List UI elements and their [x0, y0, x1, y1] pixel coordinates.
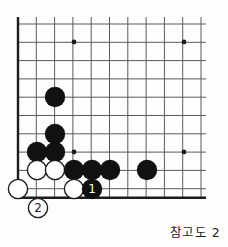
stone-black[interactable]	[64, 160, 84, 180]
black-stone[interactable]	[100, 160, 120, 180]
white-stone[interactable]	[64, 179, 83, 198]
black-stone[interactable]	[45, 142, 65, 162]
go-diagram: 12 참고도 2	[0, 0, 228, 247]
star-top-left-icon	[72, 40, 77, 45]
black-stone[interactable]	[137, 160, 157, 180]
stone-white[interactable]	[27, 160, 46, 179]
stone-white[interactable]	[45, 160, 64, 179]
stone-black[interactable]	[27, 142, 47, 162]
star-top-right-icon	[182, 40, 187, 45]
stone-black[interactable]	[82, 160, 102, 180]
stone-black[interactable]	[100, 160, 120, 180]
stone-move-number-2: 2	[34, 201, 42, 215]
stone-black[interactable]	[137, 160, 157, 180]
stone-black-move-1[interactable]: 1	[82, 179, 102, 199]
black-stone[interactable]	[27, 142, 47, 162]
black-stone[interactable]	[64, 160, 84, 180]
diagram-caption: 참고도 2	[170, 222, 220, 241]
black-stone[interactable]	[45, 87, 65, 107]
stone-white[interactable]	[8, 179, 27, 198]
stone-black[interactable]	[45, 142, 65, 162]
black-stone[interactable]	[82, 160, 102, 180]
stone-white[interactable]	[64, 179, 83, 198]
stone-black[interactable]	[45, 87, 65, 107]
white-stone[interactable]	[27, 160, 46, 179]
stone-move-number-1: 1	[88, 182, 96, 196]
black-stone[interactable]	[45, 124, 65, 144]
stone-white-move-2[interactable]: 2	[28, 198, 47, 217]
star-bottom-right-icon	[182, 150, 187, 155]
white-stone[interactable]	[45, 160, 64, 179]
star-bottom-left-icon	[72, 150, 77, 155]
white-stone[interactable]	[8, 179, 27, 198]
go-board: 12	[0, 0, 228, 247]
stone-black[interactable]	[45, 124, 65, 144]
